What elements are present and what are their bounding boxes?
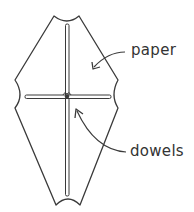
dowels-arrowhead-icon [75, 109, 83, 118]
dowels-arrow [77, 111, 126, 152]
dowel-tie-knot [65, 94, 69, 98]
kite-diagram [0, 0, 194, 212]
paper-label: paper [131, 43, 176, 58]
vertical-dowel [66, 24, 70, 196]
paper-arrow [94, 52, 125, 67]
dowels-label: dowels [130, 144, 184, 159]
